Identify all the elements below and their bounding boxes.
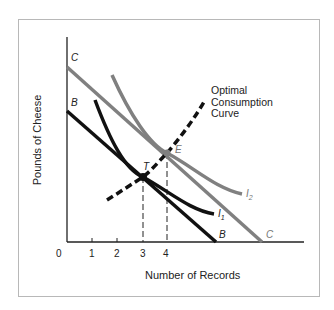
budget-label-c-bottom: C [266, 229, 273, 240]
optimal-curve-label: Optimal Consumption Curve [211, 85, 273, 120]
curve-label-i2: I2 [246, 188, 253, 203]
budget-label-b-top: B [71, 97, 78, 108]
point-t [139, 173, 147, 181]
x-tick-label-2: 2 [114, 248, 120, 259]
budget-label-c-top: C [71, 52, 78, 63]
x-tick-label-1: 1 [89, 248, 95, 259]
x-axis-label: Number of Records [145, 270, 240, 281]
budget-label-b-bottom: B [219, 229, 226, 240]
curve-label-i1: I1 [218, 208, 225, 223]
point-label-t: T [143, 161, 149, 172]
origin-label: 0 [56, 248, 62, 259]
x-tick-label-4: 4 [163, 248, 169, 259]
x-tick-label-3: 3 [140, 248, 146, 259]
point-label-e: E [175, 144, 182, 155]
y-axis-label: Pounds of Cheese [32, 95, 43, 186]
diagram-canvas [0, 0, 334, 310]
point-e [164, 150, 171, 157]
